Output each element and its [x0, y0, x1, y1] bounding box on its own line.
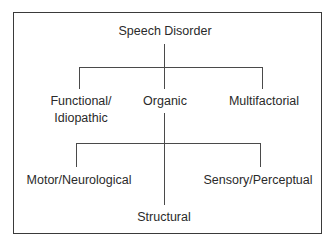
connector-to-functional — [79, 67, 80, 89]
node-sensory-perceptual: Sensory/Perceptual — [203, 173, 312, 188]
connector-to-sensory — [260, 143, 261, 167]
node-motor-neurological: Motor/Neurological — [27, 173, 132, 188]
connector-level2-bar — [76, 143, 261, 144]
node-multifactorial: Multifactorial — [229, 94, 299, 109]
connector-root-down — [164, 44, 165, 68]
node-organic: Organic — [143, 94, 187, 109]
connector-to-motor — [76, 143, 77, 167]
connector-organic-down — [164, 113, 165, 205]
node-structural: Structural — [137, 210, 191, 225]
connector-to-multifactorial — [262, 67, 263, 89]
connector-level1-bar — [79, 67, 262, 68]
node-functional-line2: Idiopathic — [50, 111, 111, 126]
node-speech-disorder: Speech Disorder — [118, 24, 211, 39]
connector-to-organic — [164, 67, 165, 89]
node-functional-line1: Functional/ — [50, 94, 111, 109]
node-functional-idiopathic: Functional/ Idiopathic — [50, 94, 111, 126]
